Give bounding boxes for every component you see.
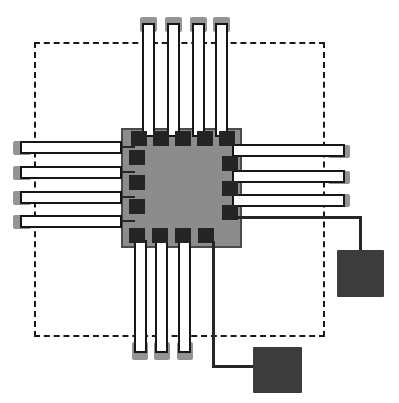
metal-trace-left-6 [20,166,122,179]
interconnect-left-stub-1 [121,146,135,148]
interconnect-left-stub-2 [121,171,135,173]
metal-trace-left-7 [20,191,122,204]
bond-pad-bottom-14 [175,228,191,243]
metal-trace-right-9 [232,144,345,157]
bond-pad-top-4 [197,131,213,146]
bond-pad-top-2 [153,131,169,146]
bond-pad-top-3 [175,131,191,146]
interconnect-right-wire-horizontal [238,216,362,219]
interconnect-bottom-wire-horizontal [212,365,256,368]
bond-pad-top-1 [131,131,147,146]
metal-trace-bottom-12 [134,240,147,353]
contact-square-right [337,250,384,297]
bond-pad-left-8 [129,199,145,214]
interconnect-left-stub-4 [121,220,135,222]
bond-pad-bottom-12 [129,228,145,243]
metal-trace-bottom-13 [155,240,168,353]
metal-trace-left-8 [20,215,122,228]
bond-pad-left-7 [129,175,145,190]
bond-pad-left-6 [129,150,145,165]
contact-square-bottom [253,347,302,393]
metal-trace-bottom-14 [178,240,191,353]
bond-pad-top-5 [219,131,235,146]
bond-pad-right-9 [222,156,238,171]
chip-layout-figure [0,0,399,403]
bond-pad-bottom-15 [198,228,214,243]
bond-pad-bottom-13 [152,228,168,243]
metal-trace-top-1 [142,23,155,137]
metal-trace-right-10 [232,170,345,183]
metal-trace-right-11 [232,194,345,207]
metal-trace-left-5 [20,141,122,154]
metal-trace-top-3 [192,23,205,137]
interconnect-bottom-wire-vertical [212,241,215,368]
interconnect-right-wire-vertical [359,216,362,253]
bond-pad-right-11 [222,205,238,220]
bond-pad-right-10 [222,181,238,196]
interconnect-left-stub-3 [121,196,135,198]
metal-trace-top-2 [167,23,180,137]
metal-trace-top-4 [215,23,228,137]
